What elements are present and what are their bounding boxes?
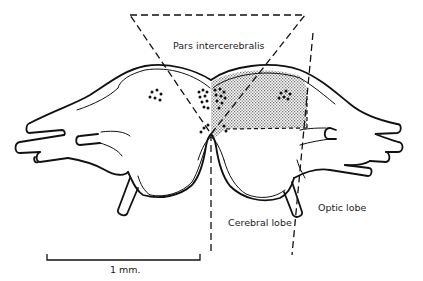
label-optic-lobe: Optic lobe [318, 202, 366, 213]
scale-bar [47, 254, 200, 260]
optic-boundary-dash [292, 33, 313, 255]
label-pars-intercerebralis: Pars intercerebralis [173, 40, 265, 51]
brain-outline [16, 65, 403, 217]
label-cerebral-lobe: Cerebral lobe [228, 217, 292, 228]
scale-bar-label: 1 mm. [110, 264, 141, 275]
